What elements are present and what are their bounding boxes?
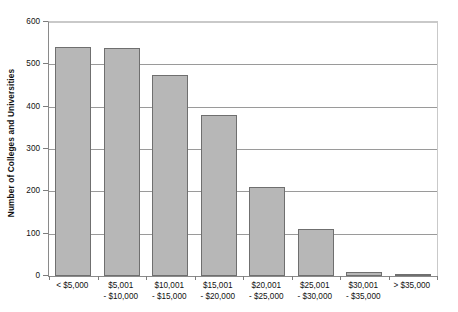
y-tick-label-600: 600 (0, 17, 40, 26)
y-tick-label-400: 400 (0, 101, 40, 110)
x-tick-mark-1 (98, 276, 99, 280)
y-tick-label-200: 200 (0, 186, 40, 195)
x-tick-label-line1: $15,001 (203, 281, 233, 290)
x-tick-label-line2: - $35,000 (332, 292, 394, 303)
x-tick-mark-4 (243, 276, 244, 280)
y-tick-label-0: 0 (0, 271, 40, 280)
y-tick-label-500: 500 (0, 59, 40, 68)
x-tick-mark-0 (49, 276, 50, 280)
x-axis-labels: < $5,000$5,001- $10,000$10,001- $15,000$… (48, 281, 436, 311)
y-tick-label-300: 300 (0, 144, 40, 153)
y-axis-title: Number of Colleges and Universities (0, 0, 22, 285)
x-tick-label-line1: < $5,000 (56, 281, 88, 290)
y-tick-label-100: 100 (0, 228, 40, 237)
x-tick-label: > $35,000 (381, 281, 443, 292)
x-tick-label-line1: $25,001 (300, 281, 330, 290)
x-tick-mark-5 (292, 276, 293, 280)
bar (201, 115, 237, 276)
x-tick-label-line1: $5,001 (108, 281, 133, 290)
x-tick-label-line1: $30,001 (348, 281, 378, 290)
bar (152, 75, 188, 276)
x-tick-mark-2 (146, 276, 147, 280)
bar (298, 229, 334, 276)
x-tick-mark-end (437, 276, 438, 280)
x-tick-mark-6 (340, 276, 341, 280)
gridline-600 (49, 22, 437, 23)
bar (346, 272, 382, 276)
bar (104, 48, 140, 276)
bar (55, 47, 91, 276)
bar (395, 274, 431, 276)
bar (249, 187, 285, 276)
x-tick-label-line1: $20,001 (251, 281, 281, 290)
x-tick-mark-3 (195, 276, 196, 280)
plot-area (48, 21, 438, 277)
bar-chart: Number of Colleges and Universities 0100… (0, 0, 458, 312)
x-tick-mark-7 (389, 276, 390, 280)
x-tick-label-line1: $10,001 (154, 281, 184, 290)
x-tick-label-line1: > $35,000 (393, 281, 430, 290)
